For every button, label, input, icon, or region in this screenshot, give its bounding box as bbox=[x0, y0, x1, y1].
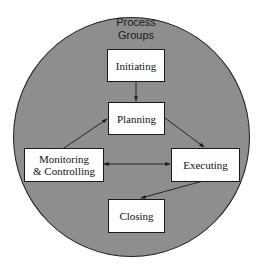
node-initiating: Initiating bbox=[107, 49, 165, 82]
node-monitoring-label-line1: Monitoring bbox=[39, 153, 89, 165]
title-line-1: Process bbox=[96, 16, 176, 29]
process-groups-diagram: Process Groups Initiating Planning Monit… bbox=[0, 0, 264, 271]
node-planning-label: Planning bbox=[117, 113, 156, 125]
node-closing: Closing bbox=[108, 199, 165, 233]
node-planning: Planning bbox=[108, 102, 165, 135]
node-monitoring-controlling: Monitoring & Controlling bbox=[24, 148, 104, 182]
title-line-2: Groups bbox=[96, 29, 176, 42]
node-closing-label: Closing bbox=[119, 210, 153, 222]
node-executing-label: Executing bbox=[183, 159, 228, 171]
node-executing: Executing bbox=[171, 148, 240, 182]
node-monitoring-label-line2: & Controlling bbox=[33, 165, 95, 177]
node-initiating-label: Initiating bbox=[116, 60, 156, 72]
diagram-title: Process Groups bbox=[96, 16, 176, 42]
